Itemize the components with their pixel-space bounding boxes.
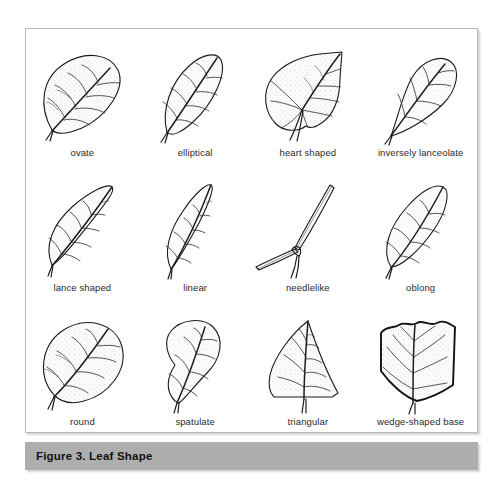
figure-caption-text: Figure 3. Leaf Shape [36,450,152,462]
figure-panel: ovate [25,28,478,433]
leaf-cell-triangular: triangular [252,298,365,432]
leaf-label: linear [183,282,207,294]
leaf-cell-elliptical: elliptical [139,29,252,163]
leaf-cell-ovate: ovate [26,29,139,163]
leaf-label: inversely lanceolate [378,147,463,159]
leaf-label: spatulate [175,416,214,428]
needlelike-leaf-illustration [254,179,362,281]
leaf-label: oblong [406,282,435,294]
oblong-leaf-illustration [367,179,475,281]
leaf-label: round [70,416,95,428]
leaf-cell-inversely-lanceolate: inversely lanceolate [364,29,477,163]
leaf-label: triangular [288,416,329,428]
ovate-leaf-illustration [28,44,136,146]
linear-leaf-illustration [141,179,249,281]
leaf-cell-lance-shaped: lance shaped [26,163,139,297]
lance-shaped-leaf-illustration [28,179,136,281]
leaf-cell-heart-shaped: heart shaped [252,29,365,163]
triangular-leaf-illustration [254,313,362,415]
leaf-label: lance shaped [54,282,112,294]
leaf-cell-linear: linear [139,163,252,297]
leaf-cell-round: round [26,298,139,432]
leaf-label: heart shaped [280,147,337,159]
heart-shaped-leaf-illustration [254,44,362,146]
leaf-cell-oblong: oblong [364,163,477,297]
leaf-cell-spatulate: spatulate [139,298,252,432]
leaf-grid: ovate [26,29,477,432]
wedge-shaped-base-leaf-illustration [367,313,475,415]
leaf-cell-wedge-shaped-base: wedge-shaped base [364,298,477,432]
leaf-shape-figure: ovate [25,28,478,470]
leaf-cell-needlelike: needlelike [252,163,365,297]
round-leaf-illustration [28,313,136,415]
inversely-lanceolate-leaf-illustration [367,44,475,146]
spatulate-leaf-illustration [141,313,249,415]
elliptical-leaf-illustration [141,44,249,146]
leaf-label: ovate [71,147,95,159]
figure-caption-bar: Figure 3. Leaf Shape [25,442,478,470]
leaf-label: elliptical [178,147,213,159]
leaf-label: wedge-shaped base [377,416,464,428]
leaf-label: needlelike [286,282,330,294]
